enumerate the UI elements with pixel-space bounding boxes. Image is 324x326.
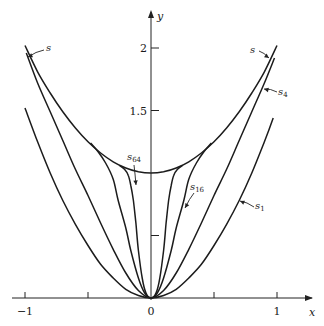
y-axis-label: y (156, 10, 164, 23)
y-axis-arrow-icon (148, 10, 154, 18)
x-tick-label: 0 (148, 305, 155, 318)
x-tick-label: −1 (17, 305, 33, 318)
curve-s1 (25, 108, 273, 298)
axes-layer: −101 1.52 x y (12, 10, 316, 319)
x-ticks: −101 (17, 292, 281, 318)
x-axis-arrow-icon (305, 295, 313, 301)
curve-label-s4: s4 (278, 86, 288, 99)
curve-annotations: sss4s64s16s1 (28, 42, 288, 213)
x-axis-label: x (309, 306, 316, 319)
curve-label-s: s (46, 42, 51, 53)
y-tick-label: 1.5 (130, 105, 148, 118)
curve-label-s: s (250, 44, 255, 55)
curve-label-s64: s64 (127, 151, 142, 164)
curve-label-s16: s16 (190, 181, 205, 194)
chart-figure: −101 1.52 x y sss4s64s16s1 (0, 0, 324, 326)
x-tick-label: 1 (274, 305, 281, 318)
curve-s4 (26, 53, 274, 298)
curve-label-s1: s1 (255, 200, 265, 213)
arrowhead-icon (240, 201, 245, 205)
y-tick-label: 2 (140, 42, 147, 55)
